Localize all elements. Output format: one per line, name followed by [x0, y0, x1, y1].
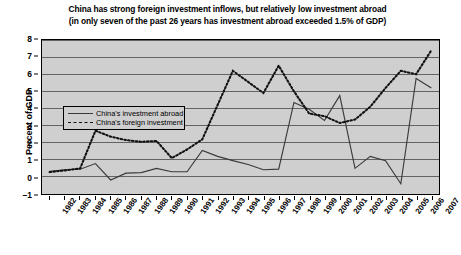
x-tick-label: 2006 — [429, 196, 447, 216]
x-tick-mark — [264, 196, 265, 200]
chart-title-line-1: China has strong foreign investment infl… — [0, 4, 455, 16]
x-tick-label: 2005 — [413, 196, 431, 216]
x-tick-label: 1984 — [91, 196, 109, 216]
x-tick-mark — [432, 196, 433, 200]
x-tick-mark — [371, 196, 372, 200]
legend-swatch-dashed-icon — [67, 119, 94, 126]
legend-item-foreign-investment: China's foreign investment — [67, 118, 181, 127]
x-tick-mark — [187, 196, 188, 200]
x-tick-label: 1996 — [275, 196, 293, 216]
x-tick-label: 2000 — [336, 196, 354, 216]
x-tick-label: 1991 — [198, 196, 216, 216]
x-tick-mark — [125, 196, 126, 200]
y-tick-label: 8 — [27, 34, 32, 44]
y-tick-label: 2 — [27, 138, 32, 148]
x-tick-mark — [310, 196, 311, 200]
y-tick-mark — [34, 73, 38, 74]
y-tick-label: 5 — [27, 86, 32, 96]
x-tick-label: 1997 — [290, 196, 308, 216]
y-tick-label: 0 — [27, 173, 32, 183]
x-tick-label: 1999 — [321, 196, 339, 216]
x-tick-label: 1988 — [152, 196, 170, 216]
y-tick-mark — [34, 56, 38, 57]
chart-title-line-2: (in only seven of the past 26 years has … — [0, 16, 455, 28]
y-tick-mark — [34, 108, 38, 109]
y-tick-mark — [34, 91, 38, 92]
x-tick-mark — [417, 196, 418, 200]
x-tick-label: 1994 — [244, 196, 262, 216]
x-tick-mark — [110, 196, 111, 200]
y-tick-mark — [34, 39, 38, 40]
x-tick-label: 1987 — [137, 196, 155, 216]
y-tick-mark — [34, 177, 38, 178]
x-tick-label: 1986 — [122, 196, 140, 216]
x-tick-label: 1992 — [214, 196, 232, 216]
x-tick-mark — [386, 196, 387, 200]
x-tick-mark — [49, 196, 50, 200]
y-tick-label: –1 — [23, 190, 32, 200]
x-tick-mark — [141, 196, 142, 200]
x-tick-label: 2001 — [352, 196, 370, 216]
x-tick-mark — [294, 196, 295, 200]
y-tick-label: 4 — [27, 103, 32, 113]
x-tick-mark — [233, 196, 234, 200]
x-tick-label: 1989 — [168, 196, 186, 216]
x-tick-label: 1983 — [76, 196, 94, 216]
y-axis-ticks: –1012345678 — [0, 33, 38, 201]
y-tick-label: 6 — [27, 69, 32, 79]
x-tick-mark — [218, 196, 219, 200]
x-tick-mark — [79, 196, 80, 200]
x-tick-label: 1995 — [260, 196, 278, 216]
legend-label-investment-abroad: China's investment abroad — [94, 109, 183, 118]
x-tick-label: 2007 — [444, 196, 461, 216]
x-tick-label: 1982 — [60, 196, 78, 216]
chart-title: China has strong foreign investment infl… — [0, 4, 455, 27]
y-tick-label: 7 — [27, 51, 32, 61]
x-tick-mark — [279, 196, 280, 200]
x-tick-mark — [171, 196, 172, 200]
x-tick-mark — [64, 196, 65, 200]
legend-swatch-solid-icon — [67, 110, 94, 117]
y-tick-mark — [34, 195, 38, 196]
x-tick-mark — [156, 196, 157, 200]
x-tick-label: 1990 — [183, 196, 201, 216]
x-tick-mark — [325, 196, 326, 200]
x-tick-label: 1985 — [106, 196, 124, 216]
legend-label-foreign-investment: China's foreign investment — [94, 118, 183, 127]
y-tick-mark — [34, 125, 38, 126]
x-tick-mark — [202, 196, 203, 200]
y-tick-mark — [34, 143, 38, 144]
x-tick-mark — [248, 196, 249, 200]
x-tick-mark — [402, 196, 403, 200]
y-tick-label: 3 — [27, 121, 32, 131]
x-tick-label: 1993 — [229, 196, 247, 216]
x-tick-label: 1998 — [306, 196, 324, 216]
x-tick-label: 2002 — [367, 196, 385, 216]
y-tick-mark — [34, 160, 38, 161]
x-tick-label: 2003 — [382, 196, 400, 216]
x-tick-mark — [340, 196, 341, 200]
x-axis-ticks: 1982198319841985198619871988198919901991… — [41, 196, 440, 254]
x-tick-mark — [95, 196, 96, 200]
x-tick-mark — [356, 196, 357, 200]
legend-item-investment-abroad: China's investment abroad — [67, 109, 181, 118]
chart-legend: China's investment abroad China's foreig… — [63, 106, 185, 130]
y-tick-label: 1 — [27, 155, 32, 165]
x-tick-label: 2004 — [398, 196, 416, 216]
